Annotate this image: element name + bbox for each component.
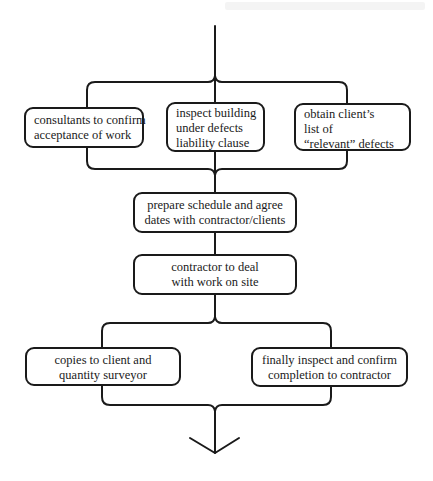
step-text: “relevant” defects	[304, 137, 409, 152]
step-text: consultants to confirm	[34, 113, 142, 128]
step-text: obtain client’s	[304, 107, 409, 122]
step-inspect-building: inspect building under defects liability…	[166, 102, 265, 152]
step-contractor-work: contractor to deal with work on site	[133, 254, 297, 295]
step-text: with work on site	[135, 275, 295, 290]
step-text: quantity surveyor	[27, 368, 179, 383]
step-text: finally inspect and confirm	[253, 353, 406, 368]
step-text: dates with contractor/clients	[135, 213, 295, 228]
connector-lines	[0, 0, 433, 481]
step-text: completion to contractor	[253, 368, 406, 383]
step-consultants-confirm: consultants to confirm acceptance of wor…	[24, 107, 144, 148]
step-finally-inspect: finally inspect and confirm completion t…	[251, 347, 408, 387]
step-text: copies to client and	[27, 353, 179, 368]
step-text: prepare schedule and agree	[135, 198, 295, 213]
step-copies-to-client: copies to client and quantity surveyor	[25, 347, 181, 386]
step-text: acceptance of work	[34, 128, 142, 143]
step-text: list of	[304, 122, 409, 137]
step-obtain-client-list: obtain client’s list of “relevant” defec…	[294, 103, 411, 151]
step-text: liability clause	[176, 136, 263, 151]
step-prepare-schedule: prepare schedule and agree dates with co…	[133, 192, 297, 233]
step-text: under defects	[176, 121, 263, 136]
step-text: contractor to deal	[135, 260, 295, 275]
step-text: inspect building	[176, 106, 263, 121]
